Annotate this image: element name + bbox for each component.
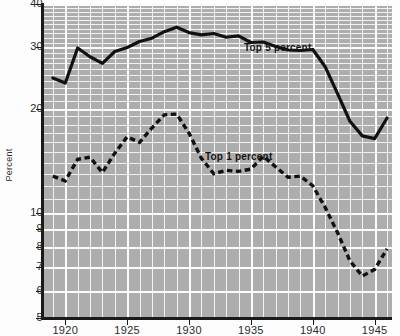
x-tick-label: 1930 xyxy=(169,324,209,336)
x-axis-line xyxy=(41,317,392,320)
x-tick-label: 1920 xyxy=(45,324,85,336)
x-tick-label: 1940 xyxy=(293,324,333,336)
y-tick-label: 7 xyxy=(37,261,43,272)
x-tick-label: 1935 xyxy=(231,324,271,336)
y-tick-label: 10 xyxy=(30,207,43,218)
y-tick-label: 5 xyxy=(37,312,43,323)
y-axis-label: Percent xyxy=(4,135,14,195)
y-tick-label: 9 xyxy=(37,223,43,234)
chart-container: 4030201098765 192019251930193519401945 P… xyxy=(0,0,400,336)
y-tick-label: 6 xyxy=(37,285,43,296)
y-tick-label: 40 xyxy=(30,0,43,9)
x-tick-label: 1945 xyxy=(355,324,395,336)
y-tick-label: 20 xyxy=(30,103,43,114)
series-line-top-5-percent xyxy=(53,27,387,138)
series-label-top-1-percent: Top 1 percent xyxy=(205,151,272,162)
y-tick-label: 8 xyxy=(37,241,43,252)
x-tick-label: 1925 xyxy=(107,324,147,336)
series-label-top-5-percent: Top 5 percent xyxy=(244,42,311,53)
series-line-top-1-percent xyxy=(53,114,387,276)
y-tick-label: 30 xyxy=(30,41,43,52)
